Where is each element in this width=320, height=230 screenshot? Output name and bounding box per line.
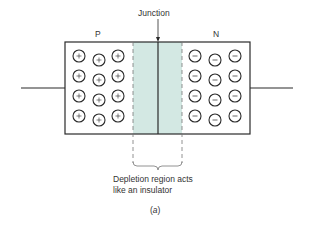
minus-charge-icon bbox=[229, 90, 241, 102]
minus-charge-icon bbox=[229, 70, 241, 82]
plus-charge-icon bbox=[93, 114, 105, 126]
minus-charge-icon bbox=[209, 94, 221, 106]
caption-line-1: Depletion region acts bbox=[113, 174, 193, 185]
caption-line-2: like an insulator bbox=[113, 185, 193, 196]
plus-charge-icon bbox=[93, 94, 105, 106]
depletion-caption: Depletion region acts like an insulator bbox=[113, 174, 193, 196]
plus-charge-icon bbox=[73, 50, 85, 62]
plus-charge-icon bbox=[112, 50, 124, 62]
n-region-label: N bbox=[213, 29, 219, 39]
figure-close-paren: ) bbox=[158, 205, 161, 215]
minus-charge-icon bbox=[189, 70, 201, 82]
plus-charge-icon bbox=[112, 90, 124, 102]
plus-charge-icon bbox=[73, 90, 85, 102]
brace-icon bbox=[133, 162, 182, 170]
plus-charge-icon bbox=[93, 74, 105, 86]
plus-charge-icon bbox=[73, 70, 85, 82]
plus-charge-icon bbox=[93, 54, 105, 66]
minus-charge-icon bbox=[229, 50, 241, 62]
junction-label: Junction bbox=[138, 8, 170, 18]
plus-charge-icon bbox=[112, 110, 124, 122]
minus-charge-icon bbox=[189, 50, 201, 62]
figure-label: (a) bbox=[150, 205, 160, 215]
n-charges bbox=[189, 50, 241, 126]
minus-charge-icon bbox=[209, 74, 221, 86]
plus-charge-icon bbox=[73, 110, 85, 122]
minus-charge-icon bbox=[189, 90, 201, 102]
arrowhead-icon bbox=[156, 37, 160, 42]
p-region-label: P bbox=[95, 29, 101, 39]
minus-charge-icon bbox=[209, 114, 221, 126]
minus-charge-icon bbox=[189, 110, 201, 122]
plus-charge-icon bbox=[112, 70, 124, 82]
minus-charge-icon bbox=[209, 54, 221, 66]
minus-charge-icon bbox=[229, 110, 241, 122]
p-charges bbox=[73, 50, 124, 126]
